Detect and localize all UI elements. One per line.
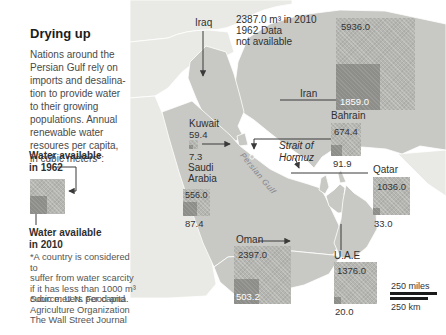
- iraq-label: Iraq: [195, 17, 212, 28]
- qatar-1962-value: 1036.0: [377, 181, 406, 192]
- uae-2010-value: 20.0: [335, 306, 354, 317]
- iran-2010-value: 1859.0: [340, 96, 369, 107]
- saudi-2010-value: 87.4: [185, 218, 204, 229]
- legend-2010-label: Water available in 2010: [29, 227, 101, 250]
- qatar-2010-square: [373, 208, 380, 215]
- saudi-label: Saudi Arabia: [188, 162, 217, 184]
- strait-of-hormuz-label: Strait of Hormuz: [279, 140, 314, 163]
- uae-label: U.A.E: [334, 250, 360, 261]
- kuwait-2010-value: 7.3: [189, 151, 202, 162]
- iran-label: Iran: [300, 88, 317, 99]
- legend-1962-label: Water available in 1962: [29, 150, 101, 173]
- legend-2010-square: [30, 196, 47, 214]
- iraq-note: 2387.0 m³ in 2010 1962 Data not availabl…: [236, 14, 317, 47]
- oman-label: Oman: [236, 234, 263, 245]
- qatar-landmass: [319, 175, 329, 194]
- qatar-2010-value: 33.0: [374, 218, 393, 229]
- oman-2010-value: 503.2: [236, 291, 260, 302]
- saudi-1962-value: 556.0: [185, 190, 208, 200]
- bahrain-label: Bahrain: [331, 110, 365, 121]
- scale-km-bar: [390, 297, 428, 300]
- source-text: Source: U.N. Food and Agriculture Organi…: [30, 294, 138, 326]
- uae-2010-square: [334, 297, 341, 304]
- bahrain-2010-square: [331, 145, 342, 156]
- kuwait-2010-square: [189, 145, 193, 149]
- page-title: Drying up: [30, 26, 91, 41]
- intro-text: Nations around the Persian Gulf rely on …: [30, 48, 136, 165]
- bahrain-2010-value: 91.9: [333, 158, 352, 169]
- iran-1962-value: 5936.0: [341, 21, 370, 32]
- kuwait-label: Kuwait: [189, 118, 219, 129]
- scale-km-label: 250 km: [391, 302, 421, 312]
- oman-1962-value: 2397.0: [238, 249, 267, 260]
- qatar-label: Qatar: [373, 164, 398, 175]
- saudi-2010-square: [183, 202, 197, 216]
- water-infographic: Drying up Nations around the Persian Gul…: [0, 0, 446, 335]
- bahrain-1962-value: 674.4: [334, 126, 358, 137]
- scale-miles-label: 250 miles: [391, 281, 430, 291]
- scale-miles-bar: [390, 292, 437, 295]
- musandam-peninsula: [338, 170, 346, 183]
- uae-1962-value: 1376.0: [337, 265, 366, 276]
- kuwait-1962-value: 59.4: [189, 129, 208, 140]
